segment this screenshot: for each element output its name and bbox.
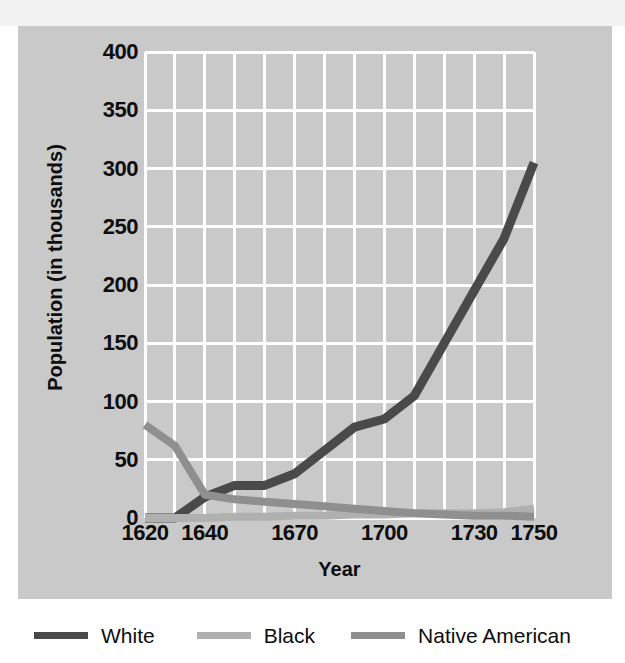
y-tick-label: 250 — [76, 216, 138, 238]
y-tick-label: 350 — [76, 99, 138, 121]
y-tick-label: 100 — [76, 391, 138, 413]
y-axis-tick-labels: 400350300250200150100500 — [68, 52, 138, 518]
series-line-white — [145, 163, 534, 518]
series-lines — [145, 52, 534, 518]
x-tick-label: 1670 — [250, 522, 340, 544]
legend-item-white: White — [34, 625, 155, 646]
legend-label-native-american: Native American — [418, 625, 571, 646]
y-tick-label: 400 — [76, 41, 138, 63]
y-tick-label: 200 — [76, 274, 138, 296]
legend-label-black: Black — [264, 625, 315, 646]
legend-swatch-white-icon — [34, 632, 88, 639]
y-axis-title: Population (in thousands) — [44, 103, 67, 433]
x-axis-tick-labels: 162016401670170017301750 — [145, 522, 534, 556]
x-tick-label: 1640 — [160, 522, 250, 544]
legend-label-white: White — [101, 625, 155, 646]
legend-swatch-black-icon — [197, 632, 251, 639]
legend-item-black: Black — [197, 625, 315, 646]
x-axis-title: Year — [145, 558, 534, 581]
legend-swatch-native-american-icon — [351, 632, 405, 639]
legend-item-native-american: Native American — [351, 625, 571, 646]
x-tick-label: 1750 — [489, 522, 579, 544]
y-tick-label: 50 — [76, 449, 138, 471]
chart-legend: White Black Native American — [18, 618, 612, 652]
chart-panel: 400350300250200150100500 Population (in … — [18, 26, 612, 599]
y-tick-label: 300 — [76, 158, 138, 180]
y-tick-label: 150 — [76, 332, 138, 354]
x-tick-label: 1700 — [339, 522, 429, 544]
plot-area — [145, 52, 534, 518]
top-white-band — [0, 0, 625, 26]
